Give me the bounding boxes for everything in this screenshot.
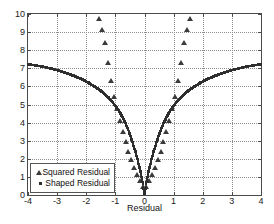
data-point-squared (152, 165, 158, 170)
data-point-squared (175, 78, 181, 83)
data-point-squared (99, 27, 105, 32)
data-point-shaped (145, 183, 147, 185)
legend-label-squared-residual: Squared Residual (42, 167, 110, 178)
data-point-squared (178, 60, 184, 65)
y-axis-tick-label: 9 (20, 28, 25, 37)
data-point-squared (96, 16, 102, 21)
data-point-squared (123, 139, 129, 144)
x-axis-tick (261, 192, 262, 195)
data-point-shaped (157, 135, 159, 137)
data-point-squared (105, 60, 111, 65)
data-point-squared (187, 16, 193, 21)
data-point-squared (131, 165, 137, 170)
data-point-shaped (152, 153, 154, 155)
data-point-squared (125, 149, 131, 154)
data-point-squared (155, 157, 161, 162)
data-point-shaped (145, 186, 147, 188)
triangle-icon (35, 170, 42, 175)
data-point-squared (163, 129, 169, 134)
data-point-shaped (259, 63, 261, 65)
data-point-shaped (155, 143, 157, 145)
data-point-squared (128, 157, 134, 162)
data-point-squared (108, 78, 114, 83)
y-axis-tick-label: 5 (20, 100, 25, 109)
data-point-squared (160, 139, 166, 144)
data-point-shaped (144, 190, 146, 192)
data-point-shaped (145, 181, 147, 183)
y-axis-tick-label: 8 (20, 46, 25, 55)
square-dot-icon (35, 182, 45, 185)
data-point-squared (102, 40, 108, 45)
data-point-squared (120, 129, 126, 134)
y-axis-tick-label: 7 (20, 64, 25, 73)
data-point-shaped (146, 178, 148, 180)
legend-item-squared-residual: Squared Residual (35, 167, 110, 178)
y-axis-tick-label: 6 (20, 82, 25, 91)
data-point-squared (149, 172, 155, 177)
data-point-shaped (143, 193, 145, 195)
data-point-shaped (144, 188, 146, 190)
y-axis-tick-label: 3 (20, 136, 25, 145)
data-point-shaped (137, 161, 139, 163)
data-point-shaped (149, 165, 151, 167)
chart-legend: Squared Residual Shaped Residual (30, 163, 115, 193)
data-point-shaped (140, 174, 142, 176)
legend-item-shaped-residual: Shaped Residual (35, 178, 110, 189)
data-point-squared (181, 40, 187, 45)
x-axis-tick (261, 14, 262, 17)
data-point-squared (158, 149, 164, 154)
y-axis-tick-label: 2 (20, 154, 25, 163)
x-axis-title: Residual (27, 203, 262, 213)
chart-figure: 012345678910-4-3-2-101234 Residual Squar… (0, 0, 274, 224)
y-axis-tick-label: 10 (15, 10, 25, 19)
y-axis-tick-label: 1 (20, 172, 25, 181)
y-axis-tick-label: 4 (20, 118, 25, 127)
data-point-squared (184, 27, 190, 32)
legend-label-shaped-residual: Shaped Residual (45, 178, 110, 189)
